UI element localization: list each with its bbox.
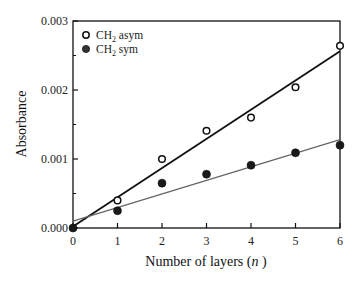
- chart: 0.0000.0010.0020.003 0123456 CH2 asym CH…: [0, 0, 360, 282]
- data-point-asym: [337, 43, 344, 50]
- x-tick-label: 3: [204, 234, 210, 248]
- y-axis-title: Absorbance: [14, 91, 29, 158]
- y-tick-label: 0.001: [41, 152, 68, 166]
- data-point-sym: [247, 161, 255, 169]
- data-point-sym: [69, 224, 77, 232]
- data-point-sym: [336, 141, 344, 149]
- legend-open-circle-icon: [83, 32, 89, 38]
- legend-item-asym: CH2 asym: [96, 29, 143, 44]
- data-point-asym: [203, 127, 210, 134]
- x-axis-ticks: 0123456: [70, 223, 343, 248]
- y-tick-label: 0.003: [41, 14, 68, 28]
- x-tick-label: 1: [115, 234, 121, 248]
- legend-filled-circle-icon: [82, 45, 89, 52]
- legend-item-sym: CH2 sym: [96, 43, 138, 58]
- x-tick-label: 0: [70, 234, 76, 248]
- data-point-sym: [292, 149, 300, 157]
- y-tick-label: 0.002: [41, 83, 68, 97]
- data-point-asym: [114, 197, 121, 204]
- y-tick-label: 0.000: [41, 221, 68, 235]
- data-points: [69, 43, 344, 232]
- fit-line-asym: [73, 51, 340, 226]
- fit-lines: [73, 51, 340, 226]
- data-point-asym: [159, 156, 166, 163]
- data-point-sym: [158, 179, 166, 187]
- x-tick-label: 4: [248, 234, 254, 248]
- data-point-sym: [203, 170, 211, 178]
- x-tick-label: 2: [159, 234, 165, 248]
- x-tick-label: 5: [293, 234, 299, 248]
- data-point-asym: [292, 84, 299, 91]
- x-axis-title: Number of layers (n ): [145, 254, 267, 270]
- data-point-sym: [114, 207, 122, 215]
- x-tick-label: 6: [337, 234, 343, 248]
- data-point-asym: [248, 114, 255, 121]
- legend: CH2 asym CH2 sym: [82, 29, 143, 58]
- fit-line-sym: [73, 140, 340, 221]
